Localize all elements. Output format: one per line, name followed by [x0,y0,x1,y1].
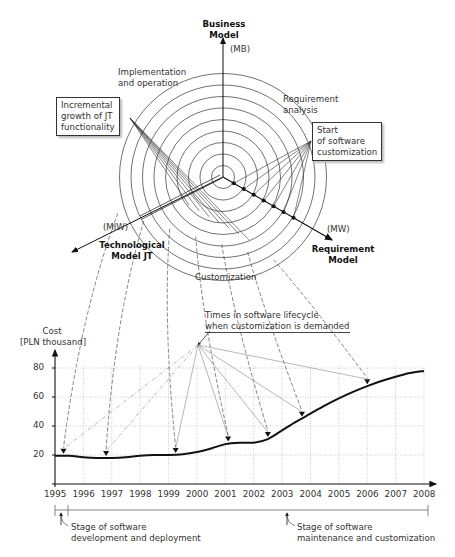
x-tick-label: 2002 [243,489,265,499]
x-tick-label: 2003 [271,489,293,499]
sector-label-customization: Customization [195,272,257,283]
x-tick-label: 2006 [356,489,378,499]
stage-development-label: Stage of software development and deploy… [71,522,201,544]
stage-maintenance-label: Stage of software maintenance and custom… [297,522,435,544]
y-tick-label: 60 [33,391,44,401]
customization-marker [364,379,370,384]
x-tick-label: 2008 [413,489,435,499]
business-model-title: Business Model [194,19,254,41]
business-model-abbr: (MB) [230,44,250,55]
x-tick-label: 2005 [328,489,350,499]
customization-marker [265,432,271,437]
customization-marker [173,448,179,453]
fan-line [198,345,228,436]
x-tick-label: 1998 [129,489,151,499]
y-axis-title: Cost [PLN thousand] [20,326,84,348]
y-tick-label: 20 [33,449,44,459]
technological-model-abbr: (MIW) [103,222,128,233]
x-tick-label: 1999 [158,489,180,499]
incremental-growth-line [130,118,229,228]
jt-growth-bar [142,178,222,219]
technological-model-title: Technological Model JT [80,240,184,262]
cost-curve [55,371,424,458]
x-tick-label: 2007 [385,489,407,499]
y-tick-label: 80 [33,362,44,372]
x-tick-label: 2004 [299,489,321,499]
customization-marker [61,449,67,454]
fan-line [198,345,367,379]
y-tick-label: 40 [33,420,44,430]
requirement-model-title: Requirement Model [298,244,388,266]
callout-incremental-growth: Incremental growth of JT functionality [56,97,120,136]
requirement-axis-arrow [223,177,332,240]
fan-line [176,345,198,448]
fan-line [198,345,268,432]
incremental-growth-line [130,118,199,211]
callout-start-customization: Start of software customization [312,122,382,161]
start-customization-line [244,141,311,189]
x-tick-label: 1996 [72,489,94,499]
x-tick-label: 2000 [186,489,208,499]
x-tick-label: 1997 [101,489,123,499]
customization-marker [225,436,231,441]
customization-marker [299,412,305,417]
fan-line [106,345,198,451]
annotation-pointer [198,331,210,345]
incremental-growth-line [130,118,219,223]
x-tick-label: 1995 [44,489,66,499]
sector-label-requirement-analysis: Requirement analysis [283,94,338,116]
incremental-growth-line [130,118,249,240]
sector-label-implementation: Implementation and operation [118,67,186,89]
incremental-growth-line [130,118,189,205]
start-customization-line [274,141,311,206]
chart-annotation: Times in software lifecycle when customi… [205,310,350,333]
requirement-model-abbr: (MW) [327,224,350,235]
stage-maint-leader [287,516,295,526]
stage-dev-leader [61,516,68,526]
start-customization-line [264,141,311,201]
fan-line [198,345,302,412]
x-tick-label: 2001 [214,489,236,499]
